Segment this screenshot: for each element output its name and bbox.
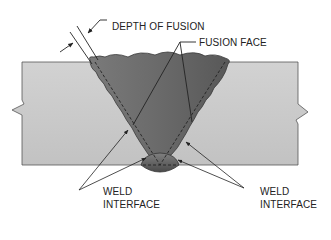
depth-of-fusion-label: DEPTH OF FUSION: [112, 21, 205, 33]
weld-interface-right-label-line1: WELD: [260, 186, 289, 198]
weld-interface-right-label-line2: INTERFACE: [260, 199, 317, 211]
weld-interface-left-label-line1: WELD: [103, 186, 132, 198]
weld-interface-left-label-line2: INTERFACE: [103, 199, 160, 211]
fusion-face-label: FUSION FACE: [199, 37, 267, 49]
